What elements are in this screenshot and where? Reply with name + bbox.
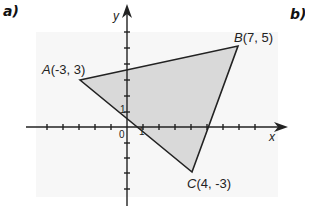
unit-x-label: 1 [139, 126, 145, 137]
point-c-name: C [187, 176, 196, 191]
point-c-coords: (4, -3) [196, 176, 231, 191]
point-b-name: B [234, 30, 243, 45]
unit-y-label: 1 [120, 104, 126, 115]
triangle-abc [80, 46, 238, 172]
point-b-label: B(7, 5) [234, 30, 273, 45]
point-a-label: A(-3, 3) [42, 62, 85, 77]
point-b-coords: (7, 5) [243, 30, 273, 45]
x-axis-label: x [269, 130, 275, 144]
point-c-label: C(4, -3) [187, 176, 231, 191]
y-axis-label: y [113, 9, 119, 23]
point-a-coords: (-3, 3) [51, 62, 86, 77]
origin-label: 0 [119, 129, 125, 140]
point-a-name: A [42, 62, 51, 77]
